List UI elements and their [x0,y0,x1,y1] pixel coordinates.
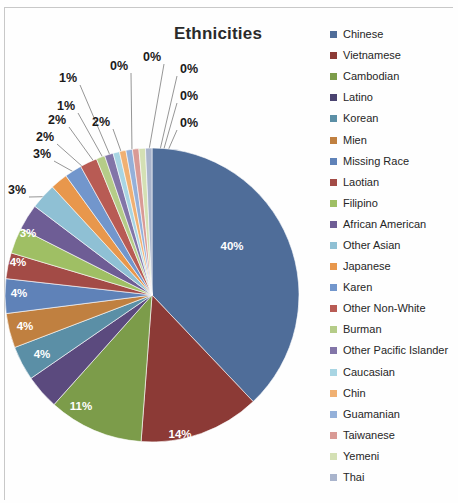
legend-item-label: Other Non-White [343,303,426,314]
legend-item-label: African American [343,219,426,230]
slice-percentage-label-outside: 1% [59,71,77,85]
legend-swatch-icon [330,390,337,397]
legend-item-label: Other Asian [343,240,400,251]
slice-percentage-label-outside: 1% [57,99,75,113]
legend-swatch-icon [330,242,337,249]
legend-item-label: Latino [343,92,373,103]
legend-swatch-icon [330,432,337,439]
slice-percentage-label-outside: 2% [48,113,66,127]
legend-swatch-icon [330,453,337,460]
legend-item[interactable]: Mien [330,129,458,150]
legend-swatch-icon [330,158,337,165]
legend-item-label: Chin [343,388,366,399]
legend-swatch-icon [330,179,337,186]
legend-item[interactable]: Guamanian [330,404,458,425]
pie-chart-area: 40%14%11%4%4%4%4%3% 1%0%0%0%0%0%1%2%2%2%… [0,0,320,503]
slice-percentage-label-outside: 2% [36,130,54,144]
legend-item[interactable]: Korean [330,108,458,129]
legend-swatch-icon [330,411,337,418]
legend-item[interactable]: Chinese [330,24,458,45]
legend-swatch-icon [330,115,337,122]
label-leader-line [131,73,132,153]
legend-swatch-icon [330,221,337,228]
legend-item[interactable]: Yemeni [330,446,458,467]
legend-swatch-icon [330,94,337,101]
legend-item[interactable]: Vietnamese [330,45,458,66]
legend-swatch-icon [330,52,337,59]
slice-percentage-label: 4% [11,287,28,299]
legend-swatch-icon [330,263,337,270]
legend-item-label: Yemeni [343,451,379,462]
legend-item-label: Missing Race [343,156,409,167]
legend-item-label: Other Pacific Islander [343,345,448,356]
legend-swatch-icon [330,369,337,376]
legend: ChineseVietnameseCambodianLatinoKoreanMi… [330,24,458,488]
slice-percentage-label: 4% [17,320,34,332]
legend-item[interactable]: Thai [330,467,458,488]
legend-item[interactable]: Other Non-White [330,298,458,319]
label-leader-line [149,64,164,150]
slice-percentage-label-outside: 0% [110,59,128,73]
legend-item[interactable]: Taiwanese [330,425,458,446]
legend-swatch-icon [330,326,337,333]
legend-item-label: Filipino [343,198,378,209]
slice-percentage-label: 4% [34,348,51,360]
slice-percentage-label-outside: 0% [180,62,198,76]
pie-slices-group [5,148,299,442]
legend-swatch-icon [330,31,337,38]
legend-item-label: Japanese [343,261,391,272]
legend-item[interactable]: Cambodian [330,66,458,87]
legend-swatch-icon [330,347,337,354]
slice-percentage-label-outside: 0% [180,89,198,103]
legend-swatch-icon [330,474,337,481]
legend-swatch-icon [330,73,337,80]
legend-item[interactable]: African American [330,214,458,235]
slice-percentage-label: 40% [220,240,243,252]
legend-swatch-icon [330,284,337,291]
legend-item-label: Laotian [343,177,379,188]
legend-item-label: Korean [343,113,378,124]
legend-item[interactable]: Other Asian [330,235,458,256]
slice-percentage-label: 14% [168,428,191,440]
legend-item-label: Caucasian [343,367,395,378]
slice-percentage-label: 4% [10,256,27,268]
slice-percentage-label-outside: 0% [180,116,198,130]
legend-item[interactable]: Caucasian [330,362,458,383]
legend-item[interactable]: Laotian [330,172,458,193]
legend-item-label: Mien [343,135,367,146]
legend-item-label: Burman [343,324,382,335]
slice-percentage-label-outside: 3% [8,183,26,197]
slice-percentage-label-outside: 2% [92,115,110,129]
slice-percentage-label: 11% [70,400,92,412]
legend-item[interactable]: Karen [330,277,458,298]
legend-item[interactable]: Japanese [330,256,458,277]
chart-screenshot: Ethnicities 40%14%11%4%4%4%4%3% 1%0%0%0%… [0,0,458,503]
slice-percentage-label-outside: 0% [143,50,161,64]
legend-swatch-icon [330,200,337,207]
slice-percentage-label-outside: 3% [33,147,51,161]
legend-item[interactable]: Other Pacific Islander [330,340,458,361]
legend-item[interactable]: Missing Race [330,151,458,172]
legend-item-label: Vietnamese [343,50,401,61]
legend-item-label: Guamanian [343,409,400,420]
legend-item-label: Chinese [343,29,383,40]
legend-swatch-icon [330,305,337,312]
legend-item-label: Cambodian [343,71,399,82]
pie-chart-svg: 40%14%11%4%4%4%4%3% 1%0%0%0%0%0%1%2%2%2%… [0,0,320,503]
legend-item[interactable]: Chin [330,383,458,404]
legend-item-label: Karen [343,282,372,293]
legend-item-label: Taiwanese [343,430,395,441]
legend-swatch-icon [330,137,337,144]
legend-item-label: Thai [343,472,364,483]
slice-percentage-label: 3% [20,227,37,239]
legend-item[interactable]: Burman [330,319,458,340]
legend-item[interactable]: Latino [330,87,458,108]
legend-item[interactable]: Filipino [330,193,458,214]
